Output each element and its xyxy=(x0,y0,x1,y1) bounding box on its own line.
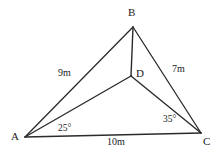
length-label-bc: 7m xyxy=(172,64,185,74)
length-label-ac: 10m xyxy=(107,137,125,147)
vertex-label-d: D xyxy=(136,68,144,79)
vertex-label-c: C xyxy=(203,136,210,147)
geometry-diagram: A B C D 9m 7m 10m 25° 35° xyxy=(0,0,219,151)
vertex-label-b: B xyxy=(128,7,135,18)
geometry-canvas xyxy=(0,0,219,151)
angle-label-c: 35° xyxy=(163,115,176,125)
vertex-label-a: A xyxy=(11,131,19,142)
segment-ad-line xyxy=(25,76,131,137)
side-ab-line xyxy=(25,27,133,137)
length-label-ab: 9m xyxy=(58,68,71,78)
segment-bd-line xyxy=(131,27,133,76)
angle-label-a: 25° xyxy=(58,124,71,134)
